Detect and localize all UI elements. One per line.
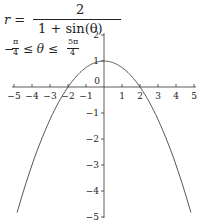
x-tick-label: 0	[94, 76, 100, 86]
x-tick-label: 2	[137, 91, 143, 101]
y-tick-label: −4	[86, 186, 100, 196]
x-tick-label: 5	[191, 91, 197, 101]
x-tick-label: 1	[119, 91, 125, 101]
y-tick-label: −2	[86, 134, 99, 144]
x-tick-label: −4	[25, 91, 39, 101]
domain-frac1-num: π	[13, 37, 18, 46]
y-tick-label: −1	[86, 108, 99, 118]
x-tick-label: 4	[173, 91, 179, 101]
domain-frac2-num: 5π	[68, 37, 78, 46]
y-tick-label: −5	[86, 212, 100, 222]
equation-numerator: 2	[76, 2, 84, 17]
domain-frac2-den: 4	[70, 48, 75, 57]
domain-frac1-den: 4	[13, 48, 18, 57]
equation-lhs: r =	[4, 12, 25, 27]
y-tick-label: 1	[93, 56, 99, 66]
x-tick-label: −5	[7, 91, 21, 101]
x-tick-label: −3	[43, 91, 57, 101]
y-tick-label: −3	[86, 160, 100, 170]
x-tick-label: 3	[155, 91, 161, 101]
domain-mid: ≤ θ ≤	[23, 42, 58, 56]
equation-denominator: 1 + sin(θ)	[38, 21, 103, 36]
x-tick-label: −1	[79, 91, 92, 101]
x-tick-label: −2	[61, 91, 74, 101]
